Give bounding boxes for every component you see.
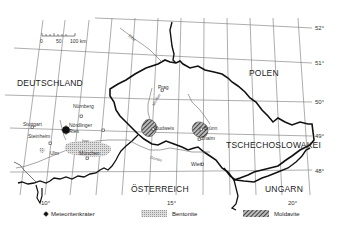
scale-tick-0: 0 — [40, 39, 43, 44]
river-label-isar: Isar — [82, 139, 89, 143]
bentonite-small — [39, 148, 44, 153]
country-label-deutschland: DEUTSCHLAND — [17, 79, 83, 88]
lat-tick-48: 48° — [315, 168, 324, 174]
country-label-ungarn: UNGARN — [265, 185, 303, 194]
city-label-nuernberg: Nürnberg — [73, 104, 94, 109]
country-label-oesterreich: ÖSTERREICH — [131, 185, 189, 194]
city-label-znaim: Znaim — [201, 136, 215, 141]
city-label-ulm: Ulm — [50, 151, 59, 156]
lat-tick-52: 52° — [315, 25, 324, 31]
city-label-steinheim: Steinheim — [28, 134, 50, 139]
map-graphics — [0, 0, 341, 233]
city-label-prag: Prag — [158, 85, 169, 90]
scale-tick-50: 50 — [56, 39, 62, 44]
city-label-bruenn: Brünn — [204, 126, 217, 131]
legend-label-meteoritenkrater: Meteoritenkrater — [51, 211, 95, 217]
border-poland-germany — [170, 22, 176, 63]
scale-bar-graphic — [42, 33, 75, 36]
legend-bentonite-swatch — [141, 210, 167, 217]
city-label-noerdlinger-ries: Nördlinger Ries — [69, 123, 103, 135]
city-label-stuttgart: Stuttgart — [23, 122, 42, 127]
city-label-muenchen: München — [79, 151, 100, 156]
legend-moldavite-swatch — [243, 210, 269, 217]
lat-tick-50: 50° — [315, 99, 324, 105]
city-label-wien: Wien — [191, 162, 202, 167]
lon-tick-10: 10° — [41, 200, 50, 206]
country-label-tschechoslowakei: TSCHECHOSLOWAKEI — [226, 141, 321, 150]
lat-tick-49: 49° — [315, 133, 324, 139]
city-label-budweis: Budweis — [155, 126, 174, 131]
border-austria-hungary — [232, 180, 238, 210]
lat-tick-51: 51° — [315, 60, 324, 66]
map: 0 50 100 km DEUTSCHLAND POLEN TSCHECHOSL… — [0, 0, 341, 233]
lon-tick-15: 15° — [167, 200, 176, 206]
border-czechoslovakia — [110, 60, 314, 180]
lon-tick-20: 20° — [288, 200, 297, 206]
country-label-polen: POLEN — [249, 69, 279, 78]
legend-label-moldavite: Moldavite — [274, 211, 300, 217]
scale-tick-100: 100 km — [70, 39, 86, 44]
legend-label-bentonite: Bentonite — [172, 211, 197, 217]
